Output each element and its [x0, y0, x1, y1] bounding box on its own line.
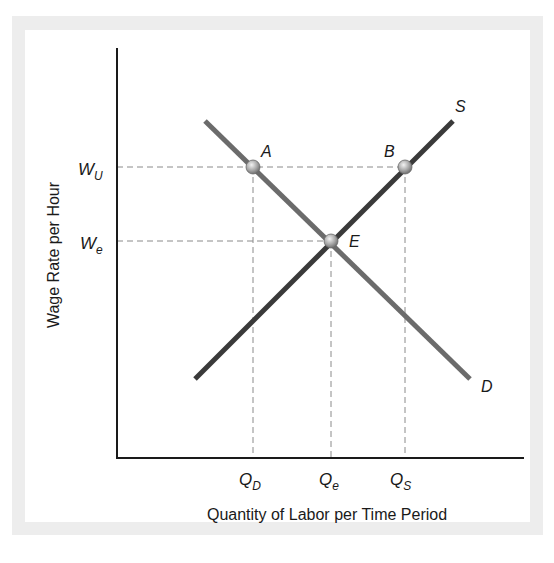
x-tick-qs: QS [390, 470, 411, 493]
demand-label: D [481, 378, 493, 395]
x-tick-qd: QD [239, 470, 261, 493]
point-b-marker [398, 160, 412, 174]
point-a-marker [246, 160, 260, 174]
point-b-label: B [384, 143, 395, 160]
y-axis-title: Wage Rate per Hour [45, 181, 62, 328]
supply-label: S [455, 98, 466, 115]
x-axis-title: Quantity of Labor per Time Period [207, 506, 447, 523]
y-tick-wu: WU [78, 160, 103, 183]
demand-curve [205, 121, 470, 379]
labor-market-diagram: A B E S D WU We QD Qe QS Wage Rate per H… [0, 0, 554, 563]
x-tick-qe: Qe [319, 470, 339, 493]
y-tick-we: We [80, 234, 103, 257]
point-e-marker [324, 234, 338, 248]
point-a-label: A [260, 143, 272, 160]
point-e-label: E [349, 233, 360, 250]
supply-curve [195, 121, 453, 379]
